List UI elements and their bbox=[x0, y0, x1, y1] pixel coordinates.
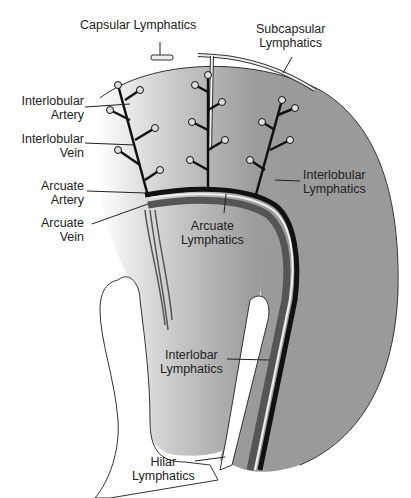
label-line: Interlobular bbox=[14, 94, 84, 108]
label-line: Lymphatics bbox=[256, 36, 326, 50]
label-line: Arcuate bbox=[181, 219, 244, 233]
capsular-lymphatic-vessel bbox=[151, 55, 173, 60]
label-interlobular-lymphatics: Interlobular Lymphatics bbox=[303, 168, 366, 196]
label-line: Lymphatics bbox=[303, 182, 366, 196]
label-line: Interlobular bbox=[303, 168, 366, 182]
label-line: Hilar bbox=[132, 455, 195, 469]
label-arcuate-lymphatics: Arcuate Lymphatics bbox=[181, 219, 244, 247]
label-line: Artery bbox=[14, 193, 84, 207]
label-interlobar-lymphatics: Interlobar Lymphatics bbox=[160, 348, 223, 376]
label-arcuate-artery: Arcuate Artery bbox=[14, 179, 84, 207]
label-interlobular-artery: Interlobular Artery bbox=[14, 94, 84, 122]
label-line: Artery bbox=[14, 108, 84, 122]
label-line: Vein bbox=[14, 146, 84, 160]
label-line: Lymphatics bbox=[160, 362, 223, 376]
label-line: Subcapsular bbox=[256, 22, 326, 36]
label-line: Lymphatics bbox=[181, 233, 244, 247]
label-line: Arcuate bbox=[14, 216, 84, 230]
label-capsular-lymphatics: Capsular Lymphatics bbox=[80, 18, 196, 32]
label-line: Arcuate bbox=[14, 179, 84, 193]
label-line: Interlobular bbox=[14, 132, 84, 146]
label-interlobular-vein: Interlobular Vein bbox=[14, 132, 84, 160]
label-subcapsular-lymphatics: Subcapsular Lymphatics bbox=[256, 22, 326, 50]
label-arcuate-vein: Arcuate Vein bbox=[14, 216, 84, 244]
label-line: Vein bbox=[14, 230, 84, 244]
label-line: Interlobar bbox=[160, 348, 223, 362]
label-hilar-lymphatics: Hilar Lymphatics bbox=[132, 455, 195, 483]
label-line: Lymphatics bbox=[132, 469, 195, 483]
kidney-lymphatics-diagram bbox=[0, 0, 411, 498]
